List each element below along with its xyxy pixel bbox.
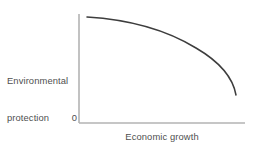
chart-figure: Environmental protection Economic growth…: [0, 0, 262, 152]
y-axis-label: Environmental protection: [7, 51, 77, 149]
tradeoff-curve: [87, 17, 236, 95]
x-axis-label: Economic growth: [79, 131, 245, 143]
origin-tick-label: 0: [67, 112, 77, 124]
y-axis-label-line-1: Environmental: [7, 75, 77, 87]
